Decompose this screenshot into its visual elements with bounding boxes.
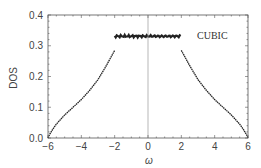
y-tick-label: 0.4	[29, 10, 43, 21]
dos-right-tail	[181, 50, 248, 138]
x-tick-label: 0	[145, 141, 151, 152]
lattice-annotation: CUBIC	[197, 30, 228, 41]
x-tick-label: −6	[42, 141, 54, 152]
x-tick-label: −4	[76, 141, 88, 152]
y-tick-label: 0.3	[29, 40, 43, 51]
y-tick-label: 0.1	[29, 102, 43, 113]
y-tick-label: 0.0	[29, 133, 43, 144]
x-tick-label: 6	[245, 141, 251, 152]
y-tick-label: 0.2	[29, 71, 43, 82]
dos-left-tail	[48, 50, 115, 138]
x-tick-label: 4	[212, 141, 218, 152]
x-axis-title: ω	[145, 155, 153, 166]
dos-chart: −6−4−202460.00.10.20.30.4 DOS ω CUBIC	[0, 0, 261, 168]
x-tick-label: 2	[179, 141, 185, 152]
y-axis-title: DOS	[8, 67, 19, 89]
x-tick-label: −2	[109, 141, 121, 152]
